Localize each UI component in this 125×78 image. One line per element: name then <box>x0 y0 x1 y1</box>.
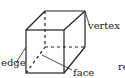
cube-diagram: vertex edge face re <box>0 0 125 78</box>
face-leader <box>42 55 72 70</box>
hidden-edge-left-bottom <box>26 47 45 73</box>
edge-top-right <box>64 11 85 30</box>
cube <box>16 11 89 73</box>
vertex-label: vertex <box>87 20 120 31</box>
edge-label: edge <box>1 57 26 68</box>
edge-top-left <box>26 11 45 30</box>
face-label: face <box>73 67 94 78</box>
cut-off-text: re <box>118 61 125 72</box>
hidden-edges <box>26 11 85 73</box>
